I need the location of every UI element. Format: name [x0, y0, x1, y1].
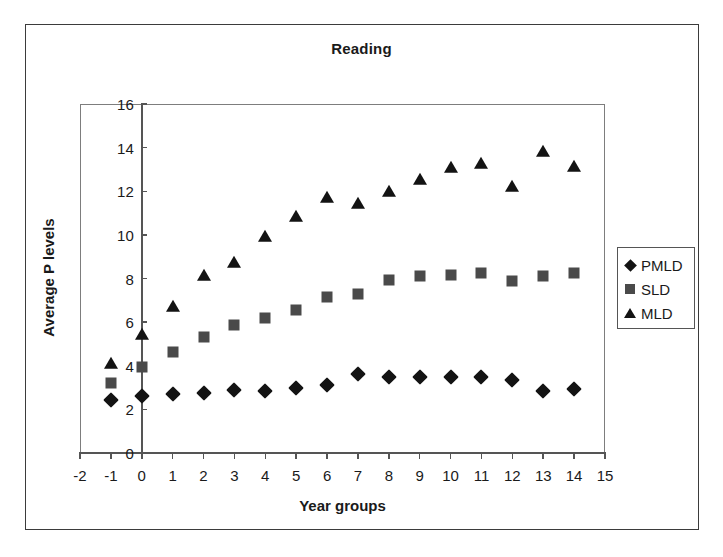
- x-tick-label: 15: [597, 467, 614, 484]
- y-tick-label: 0: [96, 445, 134, 462]
- y-tick-mark: [141, 234, 147, 236]
- x-tick-label: 3: [230, 467, 238, 484]
- x-tick-mark: [234, 452, 236, 459]
- data-point-sld: [507, 275, 518, 286]
- x-tick-label: 12: [504, 467, 521, 484]
- x-tick-mark: [203, 452, 205, 459]
- y-tick-label: 16: [96, 96, 134, 113]
- y-tick-label: 8: [96, 270, 134, 287]
- x-tick-label: 6: [323, 467, 331, 484]
- data-point-mld: [351, 197, 365, 209]
- x-tick-mark: [265, 452, 267, 459]
- data-point-sld: [322, 292, 333, 303]
- data-point-sld: [198, 332, 209, 343]
- y-tick-mark: [141, 103, 147, 105]
- legend-label: PMLD: [641, 258, 683, 273]
- x-tick-mark: [110, 452, 112, 459]
- data-point-sld: [136, 361, 147, 372]
- data-point-sld: [383, 274, 394, 285]
- x-tick-label: -1: [104, 467, 117, 484]
- data-point-mld: [289, 210, 303, 222]
- data-point-mld: [413, 173, 427, 185]
- x-tick-mark: [419, 452, 421, 459]
- data-point-mld: [258, 230, 272, 242]
- x-tick-label: 14: [566, 467, 583, 484]
- data-point-sld: [445, 270, 456, 281]
- data-point-sld: [291, 305, 302, 316]
- x-tick-label: 13: [535, 467, 552, 484]
- x-tick-mark: [141, 452, 143, 459]
- data-point-sld: [538, 271, 549, 282]
- data-point-sld: [260, 312, 271, 323]
- plot-area-border: [80, 104, 605, 453]
- chart-legend: PMLDSLDMLD: [617, 247, 695, 329]
- y-tick-label: 12: [96, 183, 134, 200]
- data-point-mld: [104, 356, 118, 368]
- y-tick-label: 6: [96, 314, 134, 331]
- data-point-mld: [166, 300, 180, 312]
- data-point-sld: [229, 320, 240, 331]
- data-point-sld: [476, 268, 487, 279]
- x-tick-label: 9: [416, 467, 424, 484]
- y-tick-label: 10: [96, 226, 134, 243]
- x-tick-label: 8: [385, 467, 393, 484]
- y-tick-mark: [141, 409, 147, 411]
- x-tick-label: 1: [168, 467, 176, 484]
- y-tick-mark: [141, 278, 147, 280]
- x-tick-mark: [573, 452, 575, 459]
- x-tick-mark: [604, 452, 606, 459]
- data-point-sld: [414, 271, 425, 282]
- square-marker-icon: [623, 284, 637, 294]
- x-tick-label: 10: [442, 467, 459, 484]
- data-point-mld: [505, 180, 519, 192]
- x-tick-mark: [481, 452, 483, 459]
- x-tick-mark: [512, 452, 514, 459]
- x-tick-mark: [172, 452, 174, 459]
- x-tick-label: 2: [199, 467, 207, 484]
- legend-item-pmld[interactable]: PMLD: [623, 253, 690, 277]
- x-tick-label: 5: [292, 467, 300, 484]
- legend-label: MLD: [641, 306, 673, 321]
- y-axis-title: Average P levels: [40, 103, 57, 452]
- chart-title: Reading: [0, 40, 723, 57]
- x-tick-mark: [295, 452, 297, 459]
- x-tick-label: 4: [261, 467, 269, 484]
- x-tick-label: 0: [138, 467, 146, 484]
- diamond-marker-icon: [623, 261, 637, 270]
- x-axis-title: Year groups: [80, 497, 605, 514]
- legend-item-sld[interactable]: SLD: [623, 277, 690, 301]
- data-point-sld: [352, 288, 363, 299]
- legend-item-mld[interactable]: MLD: [623, 301, 690, 325]
- data-point-mld: [135, 328, 149, 340]
- data-point-sld: [167, 346, 178, 357]
- x-tick-mark: [79, 452, 81, 459]
- x-tick-mark: [388, 452, 390, 459]
- y-tick-mark: [141, 147, 147, 149]
- x-tick-label: 11: [474, 467, 490, 484]
- data-point-mld: [567, 160, 581, 172]
- x-tick-mark: [326, 452, 328, 459]
- data-point-mld: [382, 185, 396, 197]
- data-point-mld: [197, 269, 211, 281]
- data-point-mld: [227, 256, 241, 268]
- data-point-mld: [320, 191, 334, 203]
- x-tick-mark: [357, 452, 359, 459]
- triangle-marker-icon: [623, 308, 637, 318]
- y-tick-label: 14: [96, 139, 134, 156]
- y-tick-mark: [141, 321, 147, 323]
- data-point-sld: [105, 378, 116, 389]
- data-point-sld: [569, 268, 580, 279]
- x-tick-label: -2: [73, 467, 86, 484]
- x-tick-mark: [542, 452, 544, 459]
- y-tick-mark: [141, 191, 147, 193]
- data-point-mld: [444, 161, 458, 173]
- legend-label: SLD: [641, 282, 670, 297]
- x-tick-label: 7: [354, 467, 362, 484]
- data-point-mld: [536, 145, 550, 157]
- data-point-mld: [474, 157, 488, 169]
- x-tick-mark: [450, 452, 452, 459]
- chart-figure: Reading 0246810121416 -2-101234567891011…: [0, 0, 723, 557]
- x-axis-line: [80, 452, 605, 454]
